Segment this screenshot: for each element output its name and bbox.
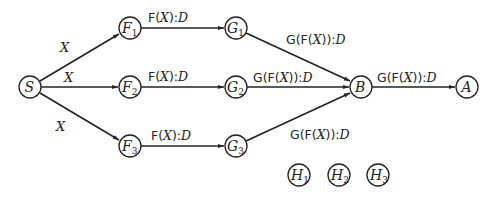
node-f2: F2 (119, 76, 141, 98)
node-h3: H3 (367, 164, 389, 186)
svg-text:B: B (354, 79, 365, 95)
edge-label-g3-b: G(F(X)):D (290, 127, 350, 142)
edge-label-b-a: G(F(X)):D (377, 70, 437, 85)
node-g1: G1 (225, 17, 247, 39)
edge-label-s-f3: X (55, 119, 66, 134)
node-h1: H1 (288, 164, 310, 186)
node-f3: F3 (119, 135, 141, 157)
node-a: A (456, 76, 478, 98)
edge-label-g2-b: G(F(X)):D (253, 70, 313, 85)
edge-label-s-f2: X (63, 70, 74, 85)
svg-text:A: A (460, 79, 472, 95)
edge-s-f1 (40, 34, 119, 81)
edge-label-f1-g1: F(X):D (148, 10, 188, 25)
node-f1: F1 (119, 17, 141, 39)
svg-text:S: S (25, 79, 35, 95)
node-b: B (350, 76, 372, 98)
node-h2: H2 (328, 164, 350, 186)
edge-label-s-f1: X (59, 40, 70, 55)
node-g3: G3 (225, 135, 247, 157)
node-s: S (19, 76, 41, 98)
diagram-canvas: X X X F(X):D F(X):D F(X):D G(F(X)):D G(F… (0, 0, 501, 200)
edge-s-f3 (40, 93, 119, 140)
edge-label-f3-g3: F(X):D (151, 128, 191, 143)
edge-label-f2-g2: F(X):D (148, 69, 188, 84)
node-g2: G2 (225, 76, 247, 98)
edge-label-g1-b: G(F(X)):D (286, 32, 346, 47)
